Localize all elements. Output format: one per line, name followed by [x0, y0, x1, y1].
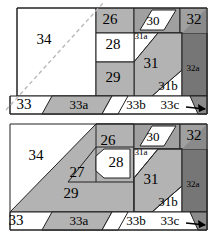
label-33a: 33a	[70, 213, 89, 228]
label-33b: 33b	[126, 213, 146, 228]
label-31a: 31a	[135, 147, 148, 157]
label-32: 32	[187, 11, 202, 27]
label-33c: 33c	[161, 213, 180, 228]
label-28: 28	[109, 154, 124, 170]
label-29: 29	[106, 69, 121, 85]
label-31: 31	[144, 171, 159, 187]
upper-figure-panel: 34 26 30 32 28 31a 31 32a 29 31b 33 33a …	[0, 0, 214, 116]
label-29: 29	[64, 185, 79, 201]
label-28: 28	[106, 36, 121, 52]
figure-root: 34 26 30 32 28 31a 31 32a 29 31b 33 33a …	[0, 0, 214, 232]
label-27: 27	[70, 164, 86, 180]
label-33c: 33c	[161, 97, 180, 112]
label-33b: 33b	[126, 97, 146, 112]
label-31b: 31b	[158, 78, 178, 93]
label-34: 34	[29, 147, 45, 163]
label-33a: 33a	[70, 97, 89, 112]
region-34	[17, 8, 96, 96]
label-34: 34	[37, 31, 53, 47]
label-32: 32	[187, 127, 202, 143]
label-31a: 31a	[135, 31, 148, 41]
label-30: 30	[147, 129, 160, 144]
label-31b: 31b	[158, 194, 178, 209]
label-26: 26	[103, 11, 119, 27]
label-33: 33	[17, 96, 32, 112]
label-33: 33	[9, 212, 24, 228]
label-30: 30	[147, 13, 160, 28]
label-31: 31	[144, 55, 159, 71]
lower-figure-panel: 34 27 26 30 32 28 31a 31 32a 29 31b 33 3…	[0, 116, 214, 232]
label-32a: 32a	[187, 179, 200, 189]
label-32a: 32a	[187, 63, 200, 73]
label-26: 26	[101, 132, 117, 148]
